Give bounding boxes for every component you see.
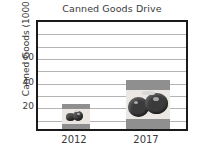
gridline-60	[38, 59, 186, 60]
x-tick-label-2017: 2017	[133, 134, 158, 145]
tomato-icon	[145, 93, 168, 114]
y-tick-label-20: 20	[4, 101, 34, 111]
plot-area	[36, 20, 188, 131]
gridline-50	[38, 71, 186, 72]
y-tick-label-60: 60	[4, 52, 34, 62]
tomato-stem-icon	[142, 91, 155, 95]
bar-2017	[126, 80, 170, 129]
chart-title: Canned Goods Drive	[36, 3, 188, 14]
tomato-stem-icon	[74, 110, 79, 112]
tomato-highlight-icon	[134, 101, 138, 104]
bar-chart: Canned Goods Drive Canned Goods (1000 lb…	[0, 0, 200, 156]
x-tick-label-2012: 2012	[61, 134, 86, 145]
y-tick-label-40: 40	[4, 77, 34, 87]
x-axis-tick-labels: 2012 2017	[36, 134, 188, 152]
bar-2012-photo	[62, 109, 90, 124]
y-axis-tick-labels: 20 40 60	[2, 20, 34, 131]
gridline-70	[38, 47, 186, 48]
gridline-80	[38, 34, 186, 35]
bar-2012	[62, 104, 90, 129]
tomato-highlight-icon	[153, 97, 159, 101]
bar-2017-photo	[126, 90, 170, 119]
tomato-highlight-icon	[77, 113, 80, 115]
